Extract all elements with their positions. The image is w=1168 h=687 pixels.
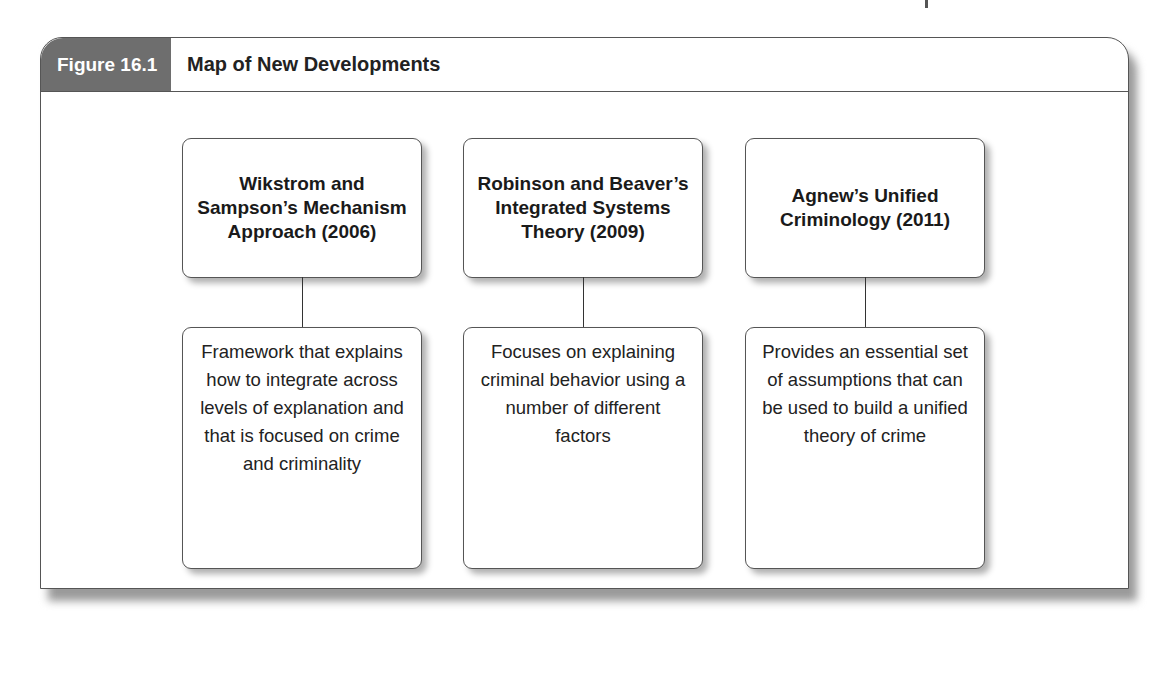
- figure-title: Map of New Developments: [187, 38, 440, 91]
- theory-heading-box: Robinson and Beaver’s Integrated Systems…: [463, 138, 703, 278]
- theory-description-box: Framework that explains how to integrate…: [182, 327, 422, 569]
- theory-heading: Agnew’s Unified Criminology (2011): [746, 184, 984, 232]
- connector-line: [583, 277, 584, 327]
- connector-line: [865, 277, 866, 327]
- figure-header: Figure 16.1 Map of New Developments: [41, 38, 1128, 92]
- theory-heading-box: Wikstrom and Sampson’s Mechanism Approac…: [182, 138, 422, 278]
- figure-frame: Figure 16.1 Map of New Developments Wiks…: [40, 37, 1129, 589]
- theory-description-box: Focuses on explaining criminal behavior …: [463, 327, 703, 569]
- theory-description: Focuses on explaining criminal behavior …: [464, 328, 702, 450]
- theory-heading: Robinson and Beaver’s Integrated Systems…: [464, 172, 702, 244]
- figure-box: Figure 16.1 Map of New Developments Wiks…: [40, 37, 1129, 589]
- figure-number-label: Figure 16.1: [41, 38, 171, 91]
- page-edge-glyph-fragment: [925, 0, 928, 8]
- theory-heading: Wikstrom and Sampson’s Mechanism Approac…: [183, 172, 421, 244]
- theory-description: Provides an essential set of assumptions…: [746, 328, 984, 450]
- theory-description: Framework that explains how to integrate…: [183, 328, 421, 478]
- theory-heading-box: Agnew’s Unified Criminology (2011): [745, 138, 985, 278]
- connector-line: [302, 277, 303, 327]
- theory-description-box: Provides an essential set of assumptions…: [745, 327, 985, 569]
